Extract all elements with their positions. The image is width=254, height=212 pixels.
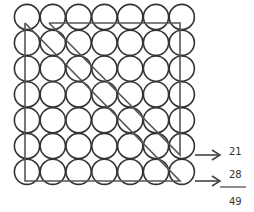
grid-circle [66,30,91,55]
grid-circle [118,133,143,158]
grid-circle [169,30,194,55]
grid-circle [143,56,168,81]
grid-circle [169,108,194,133]
grid-circle [92,4,117,29]
grid-circle [66,133,91,158]
grid-circle [143,4,168,29]
grid-circle [118,82,143,107]
grid-circle [169,82,194,107]
triangular-numbers-diagram: 21 28 49 [0,0,254,212]
grid-circle [14,133,39,158]
grid-circle [92,56,117,81]
grid-circle [66,4,91,29]
grid-circle [169,133,194,158]
grid-circle [118,4,143,29]
grid-circle [143,108,168,133]
upper-count-label: 21 [229,146,242,157]
grid-circle [40,82,65,107]
arrow-lower [195,176,220,186]
grid-circle [143,133,168,158]
circle-grid [14,4,194,184]
upper-triangle [49,23,180,155]
grid-circle [14,56,39,81]
grid-circle [143,82,168,107]
grid-circle [14,108,39,133]
grid-circle [40,133,65,158]
grid-circle [143,30,168,55]
lower-count-label: 28 [229,169,242,180]
grid-circle [92,133,117,158]
grid-circle [118,56,143,81]
grid-circle [92,30,117,55]
grid-circle [40,108,65,133]
grid-circle [92,108,117,133]
grid-circle [169,4,194,29]
grid-circle [66,108,91,133]
arrow-upper [195,150,220,160]
grid-circle [14,82,39,107]
grid-circle [169,56,194,81]
grid-circle [118,30,143,55]
sum-label: 49 [229,196,242,207]
